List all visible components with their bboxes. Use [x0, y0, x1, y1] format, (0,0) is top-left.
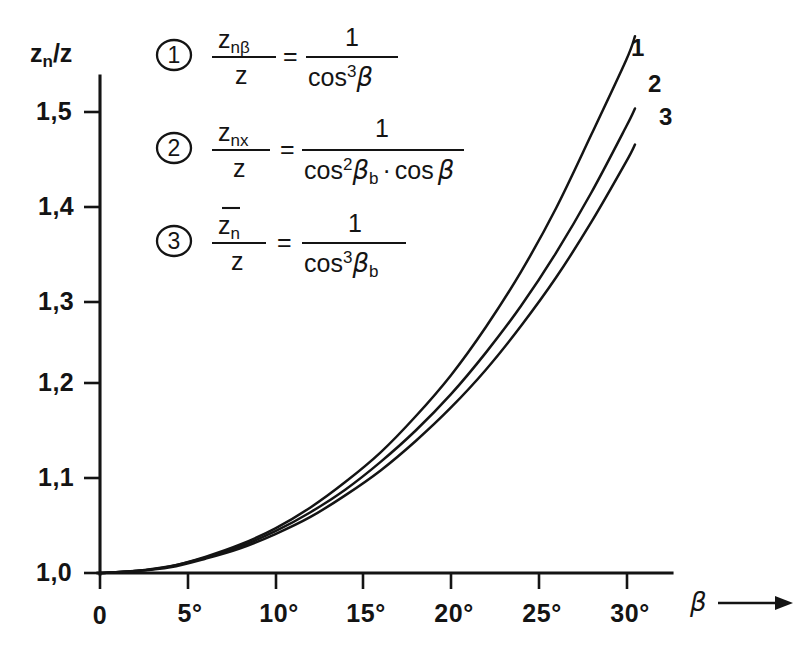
legend-3-lhs-num-base: z	[218, 211, 231, 239]
legend-3-lhs-numerator: zn	[218, 213, 240, 242]
legend-3-lhs-num-sub: n	[231, 224, 240, 243]
legend-1-lhs-numerator: znβ	[218, 27, 250, 56]
legend-2-rhs-operator: ·	[378, 156, 394, 184]
legend-2-rhs-exponent: 2	[343, 155, 352, 174]
legend-1-lhs-num-base: z	[218, 25, 231, 53]
x-tick-label-15: 15°	[346, 601, 385, 626]
chart-canvas	[0, 0, 807, 650]
y-tick-label-1-0: 1,0	[36, 560, 72, 585]
legend-badge-number-1: 1	[168, 44, 181, 67]
legend-1-lhs-denominator: z	[235, 63, 248, 88]
curve-end-label-1: 1	[631, 36, 644, 60]
x-tick-label-0: 0	[93, 603, 107, 628]
legend-2-rhs-fn: cos	[304, 156, 343, 184]
legend-2-equals: =	[280, 137, 295, 162]
y-tick-label-1-5: 1,5	[36, 99, 72, 124]
y-axis-title-denom: z	[60, 39, 73, 67]
curve-end-label-3: 3	[659, 105, 672, 129]
legend-3-rhs-arg: β	[352, 248, 369, 278]
legend-1-equals: =	[283, 44, 298, 69]
legend-2-rhs-fn2: cos	[395, 156, 434, 184]
y-tick-label-1-3: 1,3	[38, 289, 74, 314]
legend-2-rhs-denominator: cos2βb·cosβ	[304, 156, 454, 187]
legend-3-rhs-fn: cos	[304, 249, 343, 277]
y-axis-ticks	[84, 112, 100, 573]
y-tick-label-1-2: 1,2	[38, 370, 74, 395]
legend-2-lhs-num-base: z	[218, 118, 231, 146]
legend-1-rhs-denominator: cos3β	[308, 63, 373, 90]
legend-3-rhs-denominator: cos3βb	[304, 249, 378, 280]
legend-1-rhs-arg: β	[356, 62, 373, 92]
legend-2-lhs-denominator: z	[233, 156, 246, 181]
x-tick-label-25: 25°	[522, 601, 561, 626]
x-tick-label-30: 30°	[610, 601, 649, 626]
legend-badge-number-3: 3	[168, 230, 181, 253]
y-axis-title-slash: /	[53, 39, 60, 67]
x-axis-arrow-icon	[718, 596, 793, 610]
legend-3-equals: =	[277, 230, 292, 255]
y-tick-label-1-4: 1,4	[38, 194, 74, 219]
legend-2-rhs-numerator: 1	[375, 116, 389, 141]
x-axis-ticks	[100, 573, 627, 589]
legend-1-lhs-num-sub: nβ	[231, 38, 250, 57]
legend-3-rhs-exponent: 3	[343, 248, 352, 267]
y-axis-title-sub: n	[43, 52, 53, 71]
x-axis-title: β	[690, 589, 707, 615]
legend-badge-number-2: 2	[168, 137, 181, 160]
legend-1-rhs-numerator: 1	[345, 25, 359, 50]
curve-end-label-2: 2	[648, 72, 661, 96]
curve-line-1	[100, 36, 635, 573]
legend-1-rhs-exponent: 3	[347, 62, 356, 81]
x-tick-label-5: 5°	[178, 601, 203, 626]
x-tick-label-10: 10°	[259, 601, 298, 626]
x-tick-label-20: 20°	[434, 601, 473, 626]
legend-1-rhs-fn: cos	[308, 63, 347, 91]
legend-2-rhs-arg2: β	[434, 155, 455, 185]
y-axis-title: zn/z	[30, 41, 72, 70]
y-tick-label-1-1: 1,1	[38, 465, 74, 490]
legend-2-lhs-num-sub: nx	[231, 131, 249, 150]
legend-2-lhs-numerator: znx	[218, 120, 248, 149]
legend-3-lhs-denominator: z	[231, 249, 244, 274]
legend-2-rhs-arg: β	[352, 155, 369, 185]
y-axis-title-base: z	[30, 39, 43, 67]
legend-3-rhs-arg-sub: b	[369, 262, 378, 281]
legend-3-rhs-numerator: 1	[348, 211, 362, 236]
